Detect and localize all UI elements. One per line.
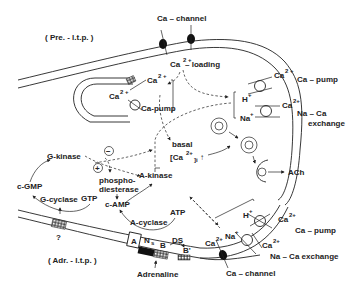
svg-text:2 +: 2 + bbox=[158, 73, 167, 79]
svg-text:2+: 2+ bbox=[216, 236, 223, 242]
atp-label: ATP bbox=[170, 208, 186, 217]
ns-protein bbox=[138, 246, 155, 256]
svg-text:2+: 2+ bbox=[293, 98, 300, 104]
svg-text:2+: 2+ bbox=[289, 212, 296, 218]
top-na-ca-exchanger bbox=[255, 106, 280, 118]
svg-text:[Ca: [Ca bbox=[170, 153, 183, 162]
adrenaline-label: Adrenaline bbox=[137, 270, 179, 279]
gtp-label: GTP bbox=[81, 194, 98, 203]
svg-text:Ca: Ca bbox=[170, 60, 181, 69]
svg-text:+: + bbox=[235, 229, 239, 235]
svg-text:Ca: Ca bbox=[205, 239, 216, 248]
svg-text:+: + bbox=[250, 111, 254, 117]
adr-ltp-label: ( Adr. - l.t.p. ) bbox=[48, 256, 97, 265]
svg-text:s: s bbox=[151, 240, 155, 246]
top-ca-pump bbox=[248, 77, 272, 94]
vesicle-2 bbox=[241, 137, 257, 153]
ca-channel-bottom-label: Ca – channel bbox=[226, 269, 275, 278]
svg-text:N: N bbox=[144, 236, 150, 245]
svg-text:Ca: Ca bbox=[274, 71, 285, 80]
svg-text:2 +: 2 + bbox=[120, 89, 129, 95]
pre-ltp-label: ( Pre. - l.t.p. ) bbox=[45, 33, 94, 42]
calcium-regulation-diagram: Ca – channel ( Pre. - l.t.p. ) Ca 2 + – … bbox=[0, 0, 351, 292]
svg-text:+: + bbox=[249, 208, 253, 214]
svg-text:Ca: Ca bbox=[278, 215, 289, 224]
bottom-ca-channel bbox=[216, 240, 228, 268]
ca-loading-label: Ca 2 + – loading bbox=[170, 57, 220, 69]
ca-channel-top-label: Ca – channel bbox=[157, 14, 206, 23]
svg-text:]i: ]i bbox=[194, 157, 198, 163]
phosphodiesterase-label-1: phospho- bbox=[99, 176, 136, 185]
basal-ca-label: [Ca 2+ ]i ↑ bbox=[170, 150, 204, 163]
er-ca-pump-label: Ca-pump bbox=[141, 104, 176, 113]
bottom-ca-pump-label: Ca – pump bbox=[295, 226, 336, 235]
b-label: B bbox=[160, 241, 166, 250]
svg-text:Ca: Ca bbox=[282, 101, 293, 110]
svg-text:Ca: Ca bbox=[262, 241, 273, 250]
top-ca-channel-1 bbox=[159, 30, 167, 55]
g-kinase-label: G-kinase bbox=[47, 152, 81, 161]
g-cyclase-label: G-cyclase bbox=[40, 195, 78, 204]
svg-text:2+: 2+ bbox=[186, 150, 193, 156]
svg-text:−: − bbox=[106, 147, 111, 156]
svg-text:↑: ↑ bbox=[200, 153, 204, 162]
svg-text:A: A bbox=[131, 237, 137, 246]
top-ca-channel-2 bbox=[187, 25, 195, 50]
ds-label: DS bbox=[172, 236, 184, 245]
ach-release-site bbox=[257, 160, 268, 182]
basal-label: basal bbox=[172, 140, 192, 149]
svg-text:+: + bbox=[95, 164, 100, 173]
phosphodiesterase-label-2: diesterase bbox=[99, 185, 139, 194]
svg-text:2 +: 2 + bbox=[285, 68, 294, 74]
c-gmp-label: c-GMP bbox=[17, 182, 43, 191]
top-na-ca-label-1: Na – Ca bbox=[297, 109, 327, 118]
question-label: ? bbox=[56, 233, 61, 242]
bottom-na-ca-label: Na – Ca exchange bbox=[270, 252, 339, 261]
a-kinase-label: A-kinase bbox=[139, 171, 173, 180]
svg-text:2+: 2+ bbox=[273, 238, 280, 244]
g-cyclase-receptor bbox=[51, 219, 66, 230]
svg-text:– loading: – loading bbox=[185, 60, 220, 69]
er-ca-out-label: Ca bbox=[147, 76, 158, 85]
a-box: A bbox=[127, 232, 142, 248]
desensitized-receptor bbox=[178, 255, 190, 260]
top-na-ca-label-2: exchange bbox=[308, 119, 345, 128]
b-prime-label: B' bbox=[183, 246, 191, 255]
activation-symbol: + bbox=[94, 164, 103, 174]
er-ca-in-label: Ca bbox=[109, 92, 120, 101]
ach-label: ACh bbox=[288, 168, 305, 177]
top-ca-pump-label: Ca – pump bbox=[297, 75, 338, 84]
vesicle-1 bbox=[211, 118, 227, 134]
top-membrane bbox=[18, 39, 302, 205]
svg-text:+: + bbox=[248, 92, 252, 98]
inhibition-symbol: − bbox=[105, 147, 114, 157]
